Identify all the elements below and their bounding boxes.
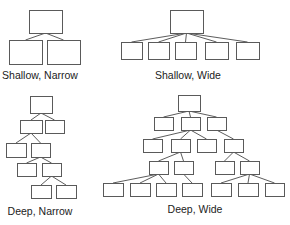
tree-node xyxy=(225,140,244,153)
tree-node xyxy=(43,164,62,177)
tree-edge xyxy=(31,113,41,120)
tree-edge xyxy=(140,174,159,183)
shallow-wide-label: Shallow, Wide xyxy=(155,69,221,81)
tree-edge xyxy=(153,130,191,139)
deep-narrow-label: Deep, Narrow xyxy=(8,205,73,217)
tree-node xyxy=(172,140,191,153)
tree-node xyxy=(216,162,235,175)
tree-node xyxy=(155,118,174,131)
tree-edge xyxy=(225,152,234,161)
tree-node xyxy=(21,121,43,134)
tree-edge xyxy=(248,174,250,183)
tree-edge xyxy=(41,176,52,185)
tree-edge xyxy=(52,176,67,185)
tree-node xyxy=(237,43,260,60)
tree-node xyxy=(48,41,81,65)
tree-node xyxy=(131,184,151,197)
tree-edge xyxy=(191,130,207,139)
tree-edge xyxy=(181,152,184,161)
deep-wide-tree: Deep, Wide xyxy=(104,96,285,216)
tree-root-node xyxy=(30,11,63,34)
tree-node xyxy=(239,184,259,197)
tree-node xyxy=(183,184,203,197)
tree-edge xyxy=(26,33,46,40)
tree-root-node xyxy=(171,11,204,34)
tree-node xyxy=(122,43,143,60)
tree-edge xyxy=(159,33,187,42)
tree-node xyxy=(150,162,169,175)
tree-edge xyxy=(187,33,217,42)
tree-node xyxy=(266,184,285,197)
tree-node xyxy=(212,184,232,197)
tree-node xyxy=(176,43,197,60)
tree-node xyxy=(182,118,201,131)
tree-node xyxy=(149,43,170,60)
tree-edge xyxy=(132,33,187,42)
tree-node xyxy=(206,43,229,60)
tree-node xyxy=(46,121,65,134)
tree-edge xyxy=(234,152,250,161)
tree-node xyxy=(208,118,227,131)
tree-node xyxy=(104,184,124,197)
tree-root-node xyxy=(179,96,201,112)
tree-edge xyxy=(159,152,181,161)
tree-edge xyxy=(41,113,55,120)
tree-node xyxy=(144,140,163,153)
tree-node xyxy=(57,186,77,199)
tree-edge xyxy=(250,174,275,183)
tree-node xyxy=(7,144,27,158)
tree-node xyxy=(241,162,260,175)
tree-edge xyxy=(217,130,234,139)
tree-edge xyxy=(46,33,64,40)
tree-node xyxy=(175,162,194,175)
tree-edge xyxy=(221,174,250,183)
tree-node xyxy=(198,140,217,153)
tree-edge xyxy=(16,133,31,143)
shallow-wide-tree: Shallow, Wide xyxy=(122,11,260,82)
tree-edge xyxy=(184,174,193,183)
tree-edge xyxy=(113,174,159,183)
tree-node xyxy=(32,144,51,158)
tree-node xyxy=(157,184,177,197)
tree-root-node xyxy=(31,97,53,114)
tree-edge xyxy=(31,133,41,143)
tree-edge xyxy=(159,174,167,183)
tree-shapes-diagram: Shallow, Narrow Shallow, Wide Deep, Narr… xyxy=(0,0,290,225)
tree-edge xyxy=(186,33,187,42)
shallow-narrow-tree: Shallow, Narrow xyxy=(2,11,80,82)
tree-node xyxy=(32,186,52,199)
tree-node xyxy=(18,164,37,177)
tree-node xyxy=(10,41,43,65)
deep-wide-label: Deep, Wide xyxy=(168,203,223,215)
deep-narrow-tree: Deep, Narrow xyxy=(7,97,77,218)
shallow-narrow-label: Shallow, Narrow xyxy=(2,69,78,81)
tree-edge xyxy=(187,33,248,42)
